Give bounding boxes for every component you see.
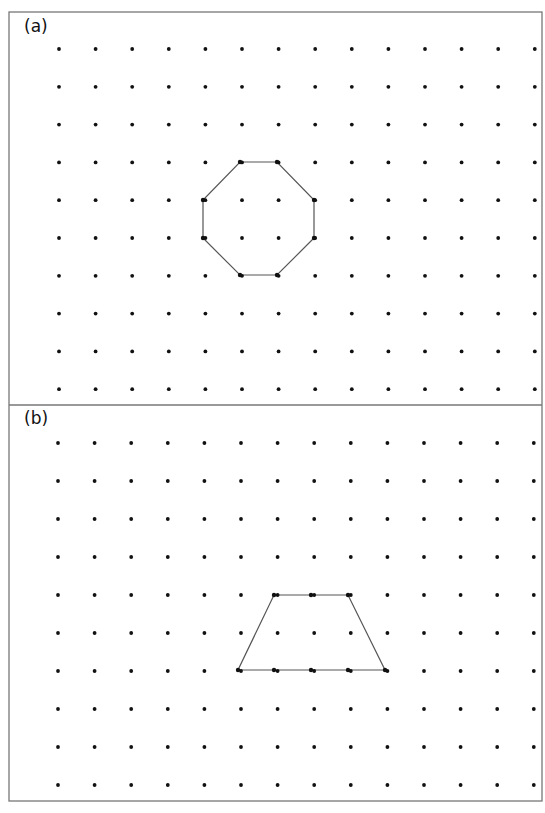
grid-dot bbox=[532, 555, 536, 559]
grid-dot bbox=[203, 593, 207, 597]
vertex-dot bbox=[309, 668, 313, 672]
grid-dot bbox=[533, 123, 537, 127]
grid-dot bbox=[239, 707, 243, 711]
grid-dot bbox=[129, 555, 133, 559]
grid-dot bbox=[204, 350, 208, 354]
grid-dot bbox=[313, 85, 317, 89]
grid-dot bbox=[239, 593, 243, 597]
grid-dot bbox=[93, 707, 97, 711]
grid-dot bbox=[167, 236, 171, 240]
grid-dot bbox=[276, 593, 280, 597]
grid-dot bbox=[386, 517, 390, 521]
grid-dot bbox=[94, 161, 98, 165]
grid-dot bbox=[387, 47, 391, 51]
grid-dot bbox=[349, 631, 353, 635]
grid-dot bbox=[276, 555, 280, 559]
grid-dot bbox=[460, 236, 464, 240]
grid-dot bbox=[203, 669, 207, 673]
grid-dot bbox=[167, 350, 171, 354]
grid-dot bbox=[422, 669, 426, 673]
grid-dot bbox=[129, 479, 133, 483]
grid-dot bbox=[532, 745, 536, 749]
grid-dot bbox=[240, 350, 244, 354]
grid-dot bbox=[129, 517, 133, 521]
grid-dot bbox=[56, 669, 60, 673]
panel-b-grid bbox=[56, 441, 536, 787]
grid-dot bbox=[387, 198, 391, 202]
grid-dot bbox=[350, 387, 354, 391]
grid-dot bbox=[423, 236, 427, 240]
grid-dot bbox=[56, 517, 60, 521]
grid-dot bbox=[56, 555, 60, 559]
grid-dot bbox=[276, 745, 280, 749]
grid-dot bbox=[496, 161, 500, 165]
grid-dot bbox=[129, 593, 133, 597]
vertex-dot bbox=[238, 160, 242, 164]
grid-dot bbox=[166, 593, 170, 597]
grid-dot bbox=[203, 555, 207, 559]
grid-dot bbox=[277, 47, 281, 51]
grid-dot bbox=[166, 783, 170, 787]
grid-dot bbox=[495, 593, 499, 597]
grid-dot bbox=[387, 387, 391, 391]
grid-dot bbox=[533, 85, 537, 89]
grid-dot bbox=[204, 47, 208, 51]
grid-dot bbox=[350, 161, 354, 165]
grid-dot bbox=[239, 517, 243, 521]
grid-dot bbox=[423, 387, 427, 391]
grid-dot bbox=[167, 274, 171, 278]
grid-dot bbox=[350, 350, 354, 354]
grid-dot bbox=[239, 745, 243, 749]
octagon-shape bbox=[203, 162, 314, 275]
grid-dot bbox=[495, 441, 499, 445]
grid-dot bbox=[57, 274, 61, 278]
grid-dot bbox=[533, 236, 537, 240]
vertex-dot bbox=[201, 236, 205, 240]
grid-dot bbox=[495, 479, 499, 483]
grid-dot bbox=[130, 350, 134, 354]
grid-dot bbox=[495, 555, 499, 559]
grid-dot bbox=[239, 631, 243, 635]
grid-dot bbox=[313, 312, 317, 316]
grid-dot bbox=[94, 350, 98, 354]
grid-dot bbox=[167, 198, 171, 202]
grid-dot bbox=[93, 631, 97, 635]
grid-dot bbox=[386, 783, 390, 787]
grid-dot bbox=[349, 745, 353, 749]
grid-dot bbox=[312, 479, 316, 483]
grid-dot bbox=[532, 783, 536, 787]
grid-dot bbox=[240, 312, 244, 316]
vertex-dot bbox=[383, 668, 387, 672]
grid-dot bbox=[460, 312, 464, 316]
grid-dot bbox=[130, 274, 134, 278]
grid-dot bbox=[349, 479, 353, 483]
grid-dot bbox=[460, 161, 464, 165]
grid-dot bbox=[349, 707, 353, 711]
grid-dot bbox=[94, 85, 98, 89]
grid-dot bbox=[276, 669, 280, 673]
panel-b-label: (b) bbox=[24, 408, 48, 428]
grid-dot bbox=[422, 631, 426, 635]
grid-dot bbox=[350, 47, 354, 51]
grid-dot bbox=[93, 441, 97, 445]
grid-dot bbox=[94, 387, 98, 391]
grid-dot bbox=[423, 198, 427, 202]
grid-dot bbox=[276, 479, 280, 483]
grid-dot bbox=[312, 631, 316, 635]
grid-dot bbox=[276, 783, 280, 787]
grid-dot bbox=[459, 783, 463, 787]
grid-dot bbox=[532, 631, 536, 635]
grid-dot bbox=[495, 631, 499, 635]
grid-dot bbox=[166, 479, 170, 483]
grid-dot bbox=[312, 555, 316, 559]
grid-dot bbox=[57, 198, 61, 202]
grid-dot bbox=[386, 479, 390, 483]
grid-dot bbox=[94, 123, 98, 127]
grid-dot bbox=[240, 123, 244, 127]
grid-dot bbox=[533, 350, 537, 354]
grid-dot bbox=[422, 555, 426, 559]
grid-dot bbox=[57, 350, 61, 354]
grid-dot bbox=[277, 350, 281, 354]
grid-dot bbox=[57, 123, 61, 127]
grid-dot bbox=[277, 312, 281, 316]
